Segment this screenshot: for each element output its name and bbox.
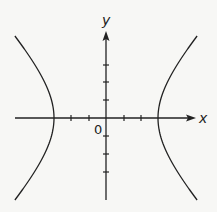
- x-axis: x: [15, 110, 208, 126]
- x-axis-label: x: [198, 110, 208, 126]
- y-axis: y: [101, 12, 111, 200]
- y-axis-label: y: [101, 12, 111, 28]
- hyperbola-diagram: x y 0: [0, 0, 217, 212]
- origin-label: 0: [94, 122, 102, 137]
